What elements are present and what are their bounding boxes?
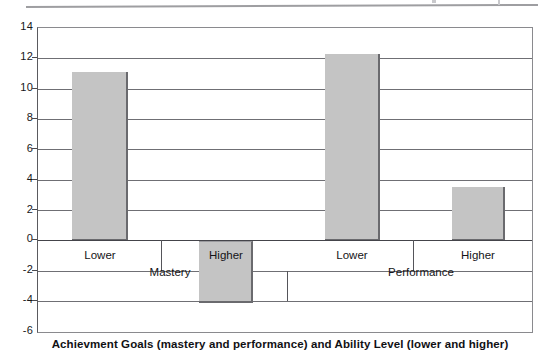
y-tick-label: -4 [0, 294, 33, 305]
chart-caption: Achievment Goals (mastery and performanc… [0, 338, 560, 350]
y-tick-label: 2 [0, 204, 33, 215]
category-label-mastery-higher: Higher [190, 249, 262, 261]
y-tick-label: 14 [0, 21, 33, 32]
y-tick-label: -2 [0, 264, 33, 275]
bar-performance-lower[interactable] [325, 54, 380, 240]
plot-area: Lower Higher Lower Higher Mastery Perfor… [37, 27, 533, 333]
group-label-performance: Performance [376, 266, 466, 278]
group-label-mastery: Mastery [130, 266, 210, 278]
bar-performance-higher[interactable] [452, 187, 505, 240]
y-tick-label: -6 [0, 325, 33, 336]
category-label-performance-higher: Higher [442, 249, 514, 261]
y-tick-label: 6 [0, 143, 33, 154]
gridline-12 [38, 58, 532, 59]
y-tick-label: 0 [0, 233, 33, 244]
bar-chart: 14 12 10 8 6 4 2 0 -2 -4 -6 [0, 0, 560, 356]
category-label-mastery-lower: Lower [64, 249, 136, 261]
y-tick-label: 4 [0, 173, 33, 184]
y-tick-label: 10 [0, 82, 33, 93]
bar-mastery-lower[interactable] [72, 72, 128, 240]
y-tick-label: 12 [0, 51, 33, 62]
gridline-0 [38, 240, 532, 241]
category-label-performance-lower: Lower [316, 249, 388, 261]
y-tick-label: 8 [0, 112, 33, 123]
group-separator [287, 271, 288, 301]
gridline-neg4 [38, 301, 532, 302]
